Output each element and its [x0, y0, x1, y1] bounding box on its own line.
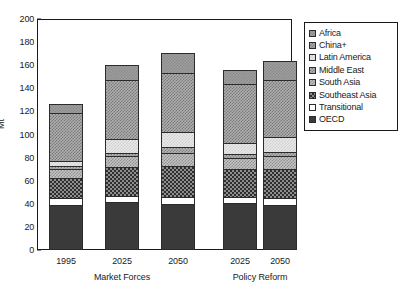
legend-item-label: Middle East	[319, 66, 364, 75]
bar-segment[interactable]	[49, 205, 83, 250]
bar-segment[interactable]	[49, 198, 83, 205]
bar-segment[interactable]	[263, 198, 297, 205]
bar-segment[interactable]	[49, 104, 83, 112]
bar-segment[interactable]	[263, 205, 297, 250]
y-axis-tick-label: 100	[20, 130, 34, 140]
bar-segment[interactable]	[105, 139, 139, 153]
bar-segment[interactable]	[161, 53, 195, 74]
bar-segment[interactable]	[223, 84, 257, 143]
y-axis-tick-label: 60	[24, 176, 34, 186]
legend-swatch-icon	[309, 79, 316, 86]
legend-swatch-icon	[309, 104, 316, 111]
legend-item-label: Southeast Asia	[319, 91, 376, 100]
bar-segment[interactable]	[105, 202, 139, 251]
bar[interactable]	[105, 65, 139, 250]
bar-segment[interactable]	[263, 61, 297, 81]
bar-segment[interactable]	[49, 166, 83, 169]
y-axis-tick-label: 80	[24, 153, 34, 163]
legend-swatch-icon	[309, 42, 316, 49]
y-axis-tick-labels: 020406080100120140160180200	[0, 19, 34, 250]
bar-segment[interactable]	[223, 169, 257, 197]
legend-item[interactable]: Latin America	[309, 52, 393, 64]
legend-item-label: China+	[319, 41, 347, 50]
legend-item[interactable]: South Asia	[309, 77, 393, 89]
legend-swatch-icon	[309, 54, 316, 61]
bar-segment[interactable]	[223, 70, 257, 84]
y-axis-tick-label: 200	[20, 14, 34, 24]
bar-segment[interactable]	[223, 154, 257, 157]
bar-segment[interactable]	[161, 197, 195, 204]
bar-segment[interactable]	[263, 152, 297, 157]
y-axis-tick-label: 0	[29, 245, 34, 255]
y-axis-tick-label: 40	[24, 199, 34, 209]
bar-segment[interactable]	[105, 153, 139, 156]
bar-segment[interactable]	[161, 132, 195, 147]
legend-item[interactable]: Middle East	[309, 64, 393, 76]
bar-segment[interactable]	[49, 113, 83, 162]
bar-segment[interactable]	[105, 156, 139, 166]
legend-item[interactable]: Southeast Asia	[309, 89, 393, 101]
bar-segment[interactable]	[263, 137, 297, 152]
bar-segment[interactable]	[223, 197, 257, 203]
bar-segment[interactable]	[105, 65, 139, 80]
x-axis-tick-label: 1995	[36, 256, 96, 266]
bar[interactable]	[263, 61, 297, 250]
bar-segment[interactable]	[223, 203, 257, 250]
bar-segment[interactable]	[49, 178, 83, 198]
bar-segment[interactable]	[223, 158, 257, 170]
y-axis-tick-label: 140	[20, 83, 34, 93]
bar-segment[interactable]	[161, 204, 195, 250]
legend-swatch-icon	[309, 30, 316, 37]
legend-item-label: Transitional	[319, 103, 363, 112]
legend-swatch-icon	[309, 67, 316, 74]
plot-area	[37, 19, 292, 250]
bar-segment[interactable]	[263, 169, 297, 198]
bar-segment[interactable]	[161, 73, 195, 132]
bar-segment[interactable]	[161, 166, 195, 197]
y-axis-tick-label: 120	[20, 106, 34, 116]
legend-swatch-icon	[309, 92, 316, 99]
bar-segment[interactable]	[263, 80, 297, 137]
legend-swatch-icon	[309, 116, 316, 123]
y-axis-tick-label: 180	[20, 37, 34, 47]
legend-item[interactable]: Africa	[309, 27, 393, 39]
y-axis-tick-label: 20	[24, 222, 34, 232]
bar[interactable]	[223, 70, 257, 250]
bar-segment[interactable]	[223, 143, 257, 155]
bar-segment[interactable]	[105, 167, 139, 196]
x-axis-tick-label: 2025	[92, 256, 152, 266]
bar[interactable]	[161, 53, 195, 251]
legend-item-label: South Asia	[319, 78, 360, 87]
x-axis-tick-label: 2050	[250, 256, 310, 266]
x-axis-group-label: Market Forces	[62, 272, 182, 282]
x-axis-group-label: Policy Reform	[200, 272, 320, 282]
legend: AfricaChina+Latin AmericaMiddle EastSout…	[304, 22, 398, 131]
legend-item-label: OECD	[319, 115, 344, 124]
bar[interactable]	[49, 104, 83, 250]
legend-item[interactable]: China+	[309, 39, 393, 51]
legend-item-label: Latin America	[319, 53, 371, 62]
bar-segment[interactable]	[49, 169, 83, 178]
bar-segment[interactable]	[161, 147, 195, 153]
legend-item[interactable]: Transitional	[309, 101, 393, 113]
x-axis-tick-label: 2050	[148, 256, 208, 266]
y-axis-tick-label: 160	[20, 60, 34, 70]
bar-segment[interactable]	[49, 161, 83, 166]
bar-segment[interactable]	[161, 153, 195, 166]
bar-segment[interactable]	[263, 156, 297, 169]
chart-root: Mt 020406080100120140160180200 199520252…	[0, 0, 404, 304]
legend-item-label: Africa	[319, 29, 341, 38]
legend-item[interactable]: OECD	[309, 114, 393, 126]
bar-segment[interactable]	[105, 196, 139, 202]
bar-segment[interactable]	[105, 80, 139, 139]
